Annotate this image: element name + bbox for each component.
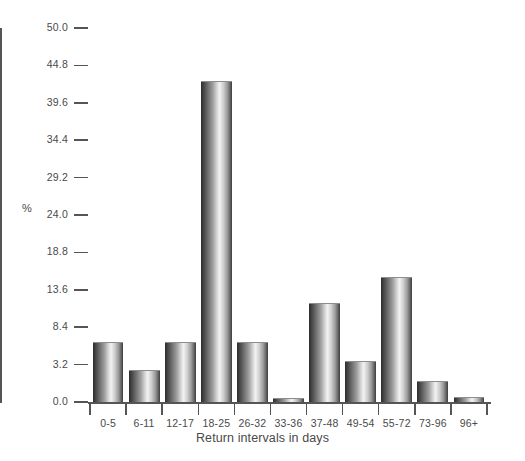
x-tick-label: 49-54 xyxy=(343,417,379,429)
x-axis-title: Return intervals in days xyxy=(0,431,525,445)
y-tick-label: 34.4 xyxy=(6,133,68,145)
bar xyxy=(129,370,160,402)
y-tick-mark xyxy=(74,252,88,254)
y-tick-label: 8.4 xyxy=(6,320,68,332)
x-tick-mark xyxy=(450,403,452,415)
x-tick-mark xyxy=(234,403,236,415)
x-tick-mark xyxy=(89,403,91,415)
x-axis-line xyxy=(88,402,491,404)
bar xyxy=(93,342,124,402)
y-tick-mark xyxy=(74,65,88,67)
y-tick-label: 24.0 xyxy=(6,208,68,220)
bar xyxy=(237,342,268,402)
x-tick-label: 6-11 xyxy=(126,417,162,429)
y-tick-mark xyxy=(74,326,88,328)
y-tick-label: 50.0 xyxy=(6,21,68,33)
y-tick-mark xyxy=(74,289,88,291)
x-tick-label: 18-25 xyxy=(198,417,234,429)
x-tick-label: 96+ xyxy=(451,417,487,429)
bar xyxy=(417,381,448,402)
x-tick-label: 73-96 xyxy=(415,417,451,429)
x-tick-mark xyxy=(486,403,488,415)
y-axis-line xyxy=(0,28,2,403)
bar-chart: % 0.03.28.413.618.824.029.234.439.644.85… xyxy=(0,0,525,461)
x-tick-mark xyxy=(414,403,416,415)
bar xyxy=(345,361,376,402)
x-tick-label: 55-72 xyxy=(379,417,415,429)
y-tick-label: 29.2 xyxy=(6,171,68,183)
x-tick-mark xyxy=(342,403,344,415)
y-tick-label: 44.8 xyxy=(6,58,68,70)
bar xyxy=(165,342,196,402)
x-tick-label: 0-5 xyxy=(90,417,126,429)
x-tick-mark xyxy=(378,403,380,415)
bar xyxy=(273,398,304,402)
y-tick-label: 3.2 xyxy=(6,358,68,370)
x-tick-label: 33-36 xyxy=(270,417,306,429)
y-tick-mark xyxy=(74,139,88,141)
y-tick-label: 39.6 xyxy=(6,96,68,108)
bar xyxy=(454,397,485,402)
y-tick-mark xyxy=(74,401,88,403)
y-tick-mark xyxy=(74,177,88,179)
y-tick-mark xyxy=(74,364,88,366)
bar xyxy=(309,303,340,402)
x-tick-label: 26-32 xyxy=(234,417,270,429)
y-tick-label: 13.6 xyxy=(6,283,68,295)
bar xyxy=(201,81,232,402)
y-tick-label: 18.8 xyxy=(6,245,68,257)
x-tick-label: 37-48 xyxy=(307,417,343,429)
x-tick-mark xyxy=(270,403,272,415)
x-tick-mark xyxy=(125,403,127,415)
x-tick-mark xyxy=(161,403,163,415)
y-tick-label: 0.0 xyxy=(6,395,68,407)
x-tick-label: 12-17 xyxy=(162,417,198,429)
x-tick-mark xyxy=(306,403,308,415)
y-tick-mark xyxy=(74,27,88,29)
y-tick-mark xyxy=(74,102,88,104)
y-tick-mark xyxy=(74,214,88,216)
x-tick-mark xyxy=(198,403,200,415)
bar xyxy=(381,277,412,402)
